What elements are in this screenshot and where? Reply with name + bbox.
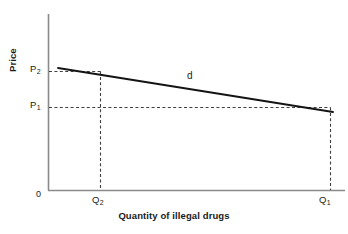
p1-subscript: 1 bbox=[37, 104, 41, 111]
x-tick-label-q2: Q2 bbox=[92, 194, 103, 205]
y-tick-label-p2: P2 bbox=[30, 63, 40, 74]
origin-label: 0 bbox=[36, 189, 41, 199]
demand-curve-d bbox=[58, 68, 333, 112]
x-axis-title: Quantity of illegal drugs bbox=[118, 210, 229, 221]
p1-base: P bbox=[30, 99, 36, 110]
q1-subscript: 1 bbox=[327, 199, 331, 206]
y-axis-title: Price bbox=[7, 48, 18, 72]
q2-subscript: 2 bbox=[100, 199, 104, 206]
demand-curve-figure: Price Quantity of illegal drugs 0 P2 P1 … bbox=[0, 0, 348, 234]
q1-base: Q bbox=[319, 194, 326, 205]
demand-curve-label: d bbox=[187, 70, 193, 81]
y-tick-label-p1: P1 bbox=[30, 99, 40, 110]
x-tick-label-q1: Q1 bbox=[319, 194, 330, 205]
p2-subscript: 2 bbox=[37, 68, 41, 75]
q2-base: Q bbox=[92, 194, 99, 205]
plot-canvas bbox=[0, 0, 348, 234]
p2-base: P bbox=[30, 63, 36, 74]
